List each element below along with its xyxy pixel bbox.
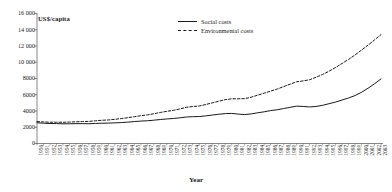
x-axis-tick-label: 1997 xyxy=(344,145,349,155)
x-axis-tick-label: 1995 xyxy=(331,145,336,155)
x-axis-tick-label: 1951 xyxy=(45,145,50,155)
x-axis-tick-label: 1955 xyxy=(71,145,76,155)
x-axis-tick-label: 1993 xyxy=(318,145,323,155)
x-axis-tick-label: 1977 xyxy=(214,145,219,155)
x-axis-tick-label: 1998 xyxy=(351,145,356,155)
x-axis-tick-label: 1959 xyxy=(97,145,102,155)
x-axis-tick-label: 1973 xyxy=(188,145,193,155)
x-axis-title: Year xyxy=(0,176,392,184)
x-axis-tick-label: 2003 xyxy=(383,145,388,155)
x-axis-tick-label: 1989 xyxy=(292,145,297,155)
x-axis-tick-label: 1969 xyxy=(162,145,167,155)
x-axis-tick-label: 1975 xyxy=(201,145,206,155)
x-axis-tick-label: 2002 xyxy=(377,145,382,155)
x-axis-tick-label: 1957 xyxy=(84,145,89,155)
x-axis-tick-label: 1987 xyxy=(279,145,284,155)
x-axis-tick-label: 1983 xyxy=(253,145,258,155)
x-axis-tick-label: 1996 xyxy=(338,145,343,155)
x-axis-tick-label: 1991 xyxy=(305,145,310,155)
x-axis-tick-label: 1963 xyxy=(123,145,128,155)
x-axis-tick-label: 1953 xyxy=(58,145,63,155)
x-axis-tick-labels: 1950195119521953195419551956195719581959… xyxy=(0,0,392,192)
x-axis-tick-label: 1994 xyxy=(325,145,330,155)
x-axis-tick-label: 1985 xyxy=(266,145,271,155)
x-axis-tick-label: 1979 xyxy=(227,145,232,155)
x-axis-tick-label: 1967 xyxy=(149,145,154,155)
x-axis-tick-label: 1999 xyxy=(357,145,362,155)
x-axis-tick-label: 1965 xyxy=(136,145,141,155)
x-axis-tick-label: 1971 xyxy=(175,145,180,155)
x-axis-tick-label: 2000 xyxy=(364,145,369,155)
x-axis-tick-label: 2001 xyxy=(370,145,375,155)
x-axis-tick-label: 1981 xyxy=(240,145,245,155)
chart-container: 0200040006000800010 00012 00014 00016 00… xyxy=(0,0,392,192)
x-axis-tick-label: 1961 xyxy=(110,145,115,155)
